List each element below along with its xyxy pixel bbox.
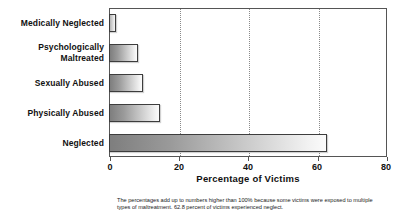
bar-sexually-abused[interactable] (109, 74, 143, 92)
category-label-physically-abused: Physically Abused (0, 108, 104, 118)
tickmark-40 (248, 157, 249, 161)
bar-neglected[interactable] (109, 134, 327, 152)
xtick-label-20: 20 (174, 162, 184, 172)
x-axis-title: Percentage of Victims (109, 173, 387, 184)
bar-row (109, 128, 387, 158)
category-label-psychologically-maltreated-line2: Maltreated (0, 53, 104, 63)
category-axis-labels: Medically Neglected Psychologically Malt… (0, 8, 104, 157)
xtick-label-60: 60 (312, 162, 322, 172)
bar-row (109, 38, 387, 68)
category-label-neglected: Neglected (0, 138, 104, 148)
category-label-medically-neglected: Medically Neglected (0, 18, 104, 28)
bar-row (109, 8, 387, 38)
bar-chart-figure: Medically Neglected Psychologically Malt… (0, 0, 395, 224)
tickmark-0 (110, 157, 111, 161)
chart-footnote: The percentages add up to numbers higher… (117, 197, 379, 211)
tickmark-80 (387, 157, 388, 161)
xtick-label-80: 80 (381, 162, 391, 172)
xtick-label-0: 0 (107, 162, 112, 172)
xtick-label-40: 40 (243, 162, 253, 172)
bars-layer (109, 8, 387, 157)
tickmark-60 (318, 157, 319, 161)
category-label-sexually-abused: Sexually Abused (0, 78, 104, 88)
bar-psychologically-maltreated[interactable] (109, 44, 138, 62)
bar-row (109, 68, 387, 98)
category-label-psychologically-maltreated-line1: Psychologically (0, 42, 104, 52)
bar-row (109, 98, 387, 128)
bar-physically-abused[interactable] (109, 104, 160, 122)
bar-medically-neglected[interactable] (109, 14, 116, 32)
tickmark-20 (179, 157, 180, 161)
